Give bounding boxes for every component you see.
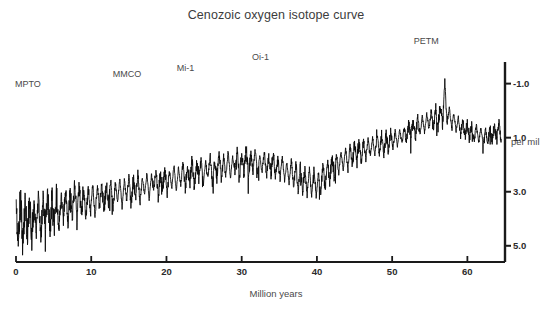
x-axis-tick-label: 20: [157, 266, 175, 277]
y-axis-tick-label: 5.0: [513, 240, 526, 251]
x-axis-tick-label: 10: [82, 266, 100, 277]
figure-container: Cenozoic oxygen isotope curve MPTOMMCOMi…: [0, 0, 552, 309]
x-axis-title: Million years: [0, 288, 552, 299]
annotation-mmco: MMCO: [113, 69, 142, 79]
x-axis-tick-label: 30: [233, 266, 251, 277]
annotation-oi-1: Oi-1: [252, 52, 269, 62]
x-axis-tick-label: 60: [458, 266, 476, 277]
annotation-mpto: MPTO: [15, 79, 41, 89]
x-axis-tick-label: 50: [383, 266, 401, 277]
chart-canvas: [0, 0, 552, 309]
y-axis-tick-label: -1.0: [513, 78, 529, 89]
annotation-mi-1: Mi-1: [177, 63, 195, 73]
annotation-petm: PETM: [414, 36, 439, 46]
y-axis-title: per mil: [511, 136, 540, 147]
x-axis-tick-label: 0: [7, 266, 25, 277]
data-series-benthic-d18o: [16, 79, 501, 256]
x-axis-tick-label: 40: [308, 266, 326, 277]
y-axis-tick-label: 3.0: [513, 186, 526, 197]
